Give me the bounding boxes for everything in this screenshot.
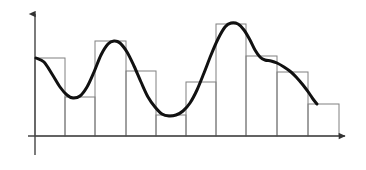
histogram-bars-group (35, 24, 339, 136)
histogram-bar-10 (308, 104, 339, 136)
histogram-density-figure (0, 0, 366, 170)
histogram-bar-7 (216, 24, 246, 136)
histogram-bar-2 (65, 97, 95, 136)
histogram-bar-6 (186, 82, 216, 136)
histogram-bar-9 (277, 72, 308, 136)
histogram-bar-8 (246, 56, 277, 136)
plot-canvas (0, 0, 366, 170)
histogram-bar-5 (156, 115, 186, 136)
density-curve (36, 23, 317, 116)
